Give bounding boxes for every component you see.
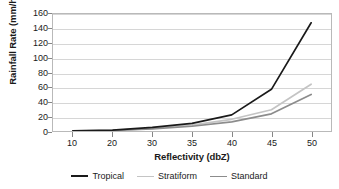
x-tick-label: 45 [252,138,292,149]
series-line-tropical [73,23,311,131]
x-tickmark [272,132,273,137]
plot-area [52,13,332,132]
legend-label: Stratiform [158,171,197,182]
x-axis-tick-labels: 10203035404550 [52,138,332,150]
x-tickmark [232,132,233,137]
legend-label: Tropical [92,171,124,182]
legend-item-standard[interactable]: Standard [210,171,268,182]
y-tick-label: 60 [16,82,48,92]
chart-legend: TropicalStratiformStandard [0,168,339,184]
y-tick-label: 80 [16,68,48,78]
x-tickmark [312,132,313,137]
x-tick-label: 20 [92,138,132,149]
y-tick-label: 20 [16,112,48,122]
x-tickmark [152,132,153,137]
x-axis-title: Reflectivity (dbZ) [52,151,332,162]
y-tick-label: 0 [16,127,48,137]
x-tickmark [72,132,73,137]
legend-swatch-icon [210,176,227,177]
rainfall-rate-vs-reflectivity-chart: Rainfall Rate (mm/hr) 020406080100120140… [0,0,339,189]
x-tickmark [192,132,193,137]
y-tickmark [47,132,52,133]
legend-item-stratiform[interactable]: Stratiform [137,171,197,182]
y-tick-label: 120 [16,38,48,48]
x-tick-label: 10 [52,138,92,149]
legend-item-tropical[interactable]: Tropical [71,171,124,182]
legend-label: Standard [231,171,268,182]
y-tick-label: 160 [16,8,48,18]
y-tick-label: 40 [16,97,48,107]
y-axis-tick-labels: 020406080100120140160 [16,8,48,134]
series-lines [53,14,331,131]
x-tick-label: 50 [292,138,332,149]
x-tick-label: 35 [172,138,212,149]
x-tickmark [112,132,113,137]
x-tick-label: 40 [212,138,252,149]
legend-swatch-icon [71,175,88,177]
y-tick-label: 100 [16,53,48,63]
x-tick-label: 30 [132,138,172,149]
legend-swatch-icon [137,176,154,177]
y-tick-label: 140 [16,23,48,33]
